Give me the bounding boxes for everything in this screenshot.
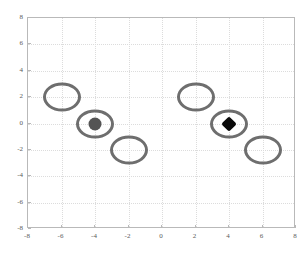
x-axis-tick-mark [295,225,296,228]
y-axis-tick-mark [28,202,31,203]
x-axis-tick-label: -8 [24,232,30,240]
y-axis-tick-label: 4 [11,66,23,74]
gridline-horizontal [28,44,294,46]
gridline-vertical [196,18,198,227]
y-axis-tick-mark [28,149,31,150]
y-axis-tick-label: -4 [11,171,23,179]
y-axis-tick-mark [28,96,31,97]
x-axis-tick-label: 6 [260,232,264,240]
x-axis-tick-label: 0 [159,232,163,240]
x-axis-tick-mark [128,225,129,228]
x-axis-tick-label: -2 [125,232,131,240]
y-axis-tick-label: 0 [11,119,23,127]
y-axis-tick-label: 2 [11,92,23,100]
x-axis-tick-mark [161,225,162,228]
y-axis-tick-label: 8 [11,13,23,21]
marker-filled-circle [89,117,102,130]
y-axis-tick-label: -2 [11,145,23,153]
gridline-vertical [129,18,131,227]
gridline-horizontal [28,71,294,73]
x-axis-tick-mark [228,225,229,228]
y-axis-tick-mark [28,175,31,176]
marker-ellipse-outline [244,135,282,164]
x-axis-tick-mark [61,225,62,228]
gridline-vertical [62,18,64,227]
x-axis-tick-label: 4 [226,232,230,240]
marker-ellipse-outline [43,83,81,112]
y-axis-tick-mark [28,43,31,44]
y-axis-tick-label: -6 [11,198,23,206]
x-axis-tick-label: -6 [58,232,64,240]
gridline-vertical [263,18,265,227]
y-axis-tick-label: -8 [11,224,23,232]
gridline-horizontal [28,124,294,126]
y-axis-tick-mark [28,228,31,229]
x-axis-tick-label: 2 [193,232,197,240]
marker-ellipse-outline [110,135,148,164]
plot-area [27,17,295,228]
y-axis-tick-mark [28,17,31,18]
y-axis-tick-mark [28,123,31,124]
gridline-vertical [162,18,164,227]
y-axis-tick-mark [28,70,31,71]
gridline-horizontal [28,176,294,178]
y-axis-tick-label: 6 [11,39,23,47]
x-axis-tick-label: 8 [293,232,297,240]
x-axis-tick-label: -4 [91,232,97,240]
x-axis-tick-mark [195,225,196,228]
x-axis-tick-mark [262,225,263,228]
x-axis-tick-mark [94,225,95,228]
gridline-horizontal [28,203,294,205]
scatter-plot-figure: -8-6-4-20246886420-2-4-6-8 [0,0,308,257]
marker-ellipse-outline [177,83,215,112]
